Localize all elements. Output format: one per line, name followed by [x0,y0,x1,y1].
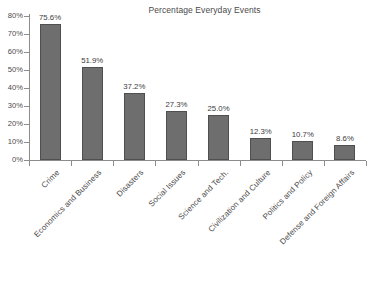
bar-value-label: 75.6% [30,13,70,22]
x-axis-tick [240,161,241,166]
x-axis-tick [324,161,325,166]
bar-value-label: 10.7% [283,130,323,139]
x-axis-label: Defense and Foreign Affairs [278,168,356,246]
x-axis-tick [113,161,114,166]
bar[interactable] [292,141,313,160]
bar[interactable] [82,67,103,160]
y-axis-tick-label: 60% [1,47,23,56]
y-axis-tick-label: 70% [1,29,23,38]
bar-chart: Percentage Everyday Events 0%10%20%30%40… [0,0,371,298]
bar-value-label: 37.2% [114,82,154,91]
x-axis-label: Social Issues [147,168,188,209]
x-axis-label: Disasters [115,168,146,199]
y-axis-tick-label: 0% [1,155,23,164]
bar[interactable] [250,138,271,160]
bar-value-label: 8.6% [325,134,365,143]
x-axis-tick [282,161,283,166]
x-axis-tick [198,161,199,166]
x-axis-label: Crime [40,168,62,190]
bar[interactable] [334,145,355,160]
bar-value-label: 12.3% [241,127,281,136]
x-axis-tick [366,161,367,166]
x-axis-tick [71,161,72,166]
bar-value-label: 27.3% [156,100,196,109]
y-axis-tick-label: 20% [1,119,23,128]
bar[interactable] [208,115,229,160]
y-axis-tick-label: 30% [1,101,23,110]
y-axis-tick-label: 80% [1,11,23,20]
bar-value-label: 25.0% [199,104,239,113]
bar[interactable] [124,93,145,160]
y-axis-tick-label: 40% [1,83,23,92]
y-axis-tick-label: 50% [1,65,23,74]
bar-value-label: 51.9% [72,56,112,65]
x-axis-tick [29,161,30,166]
bar[interactable] [40,24,61,160]
x-axis-tick [155,161,156,166]
bar[interactable] [166,111,187,160]
y-axis-tick-label: 10% [1,137,23,146]
